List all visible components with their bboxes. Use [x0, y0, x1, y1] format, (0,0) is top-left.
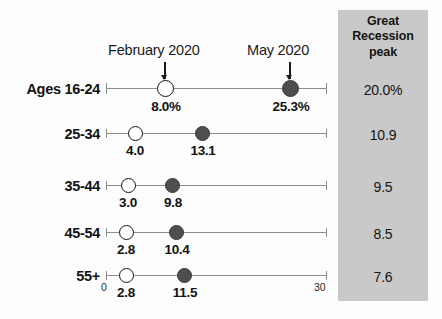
chart-canvas: Great Recession peak 20.0% 10.9 9.5 8.5 …	[0, 0, 442, 319]
value-label-february-25-34: 4.0	[100, 143, 170, 158]
axis-tick-start-35-44	[106, 181, 107, 190]
legend-label-may-2020: May 2020	[247, 42, 309, 58]
peak-value-25-34: 10.9	[338, 127, 428, 143]
peak-value-35-44: 9.5	[338, 179, 428, 195]
axis-tick-start-55-plus	[106, 271, 107, 280]
value-label-may-35-44: 9.8	[138, 195, 208, 210]
axis-tick-start-ages-16-24	[106, 83, 107, 94]
panel-title-line-1: Great	[367, 14, 399, 28]
marker-may-ages-16-24[interactable]	[282, 80, 299, 97]
axis-tick-start-45-54	[106, 228, 107, 237]
axis-tick-end-25-34	[326, 129, 327, 138]
great-recession-panel-title: Great Recession peak	[338, 14, 428, 60]
marker-may-35-44[interactable]	[165, 178, 180, 193]
value-label-february-ages-16-24: 8.0%	[131, 99, 201, 114]
marker-february-35-44[interactable]	[121, 178, 136, 193]
marker-may-55-plus[interactable]	[177, 268, 192, 283]
peak-value-ages-16-24: 20.0%	[338, 82, 428, 98]
axis-tick-end-55-plus	[326, 271, 327, 280]
peak-value-45-54: 8.5	[338, 226, 428, 242]
peak-value-55-plus: 7.6	[338, 269, 428, 285]
row-label-45-54: 45-54	[0, 225, 100, 241]
row-label-25-34: 25-34	[0, 126, 100, 142]
leader-line-february	[164, 62, 166, 79]
marker-may-45-54[interactable]	[169, 225, 184, 240]
leader-line-may	[289, 62, 291, 79]
value-label-may-ages-16-24: 25.3%	[256, 99, 326, 114]
value-label-may-45-54: 10.4	[142, 242, 212, 257]
axis-line-35-44	[106, 185, 327, 186]
value-label-may-55-plus: 11.5	[150, 285, 220, 300]
row-label-55-plus: 55+	[0, 268, 100, 284]
axis-max-label: 30	[314, 281, 326, 293]
row-label-ages-16-24: Ages 16-24	[0, 81, 100, 97]
axis-min-label: 0	[101, 281, 107, 293]
axis-line-55-plus	[106, 275, 327, 276]
panel-title-line-2: Recession	[352, 29, 414, 43]
marker-february-ages-16-24[interactable]	[157, 80, 174, 97]
axis-tick-end-ages-16-24	[326, 83, 327, 94]
marker-february-25-34[interactable]	[128, 126, 143, 141]
axis-line-45-54	[106, 232, 327, 233]
value-label-may-25-34: 13.1	[168, 143, 238, 158]
row-label-35-44: 35-44	[0, 178, 100, 194]
axis-tick-start-25-34	[106, 129, 107, 138]
marker-february-45-54[interactable]	[119, 225, 134, 240]
legend-label-february-2020: February 2020	[108, 42, 200, 58]
axis-tick-end-35-44	[326, 181, 327, 190]
marker-may-25-34[interactable]	[195, 126, 210, 141]
axis-tick-end-45-54	[326, 228, 327, 237]
panel-title-line-3: peak	[369, 45, 397, 59]
marker-february-55-plus[interactable]	[119, 268, 134, 283]
